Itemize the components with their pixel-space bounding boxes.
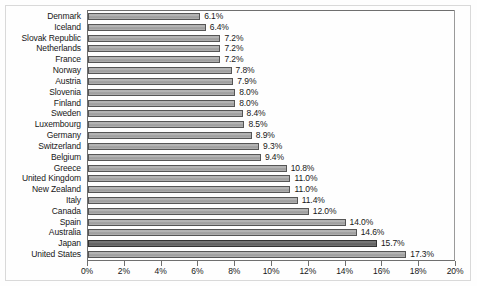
axis-tick-label: 18% (410, 266, 427, 277)
axis-tick-label: 8% (228, 266, 240, 277)
axis-tick-label: 6% (191, 266, 203, 277)
bar-value-label: 10.8% (291, 164, 315, 173)
bar (88, 89, 235, 96)
bar-rows: 6.1%6.4%7.2%7.2%7.2%7.8%7.9%8.0%8.0%8.4%… (88, 11, 454, 260)
bar (88, 35, 220, 42)
bar (88, 208, 309, 215)
bar-value-label: 11.0% (294, 174, 317, 183)
category-label: Denmark (0, 11, 84, 22)
axis-tick-label: 2% (118, 266, 130, 277)
bar-row: 6.1% (88, 11, 454, 22)
bar (88, 186, 290, 193)
category-label: Luxembourg (0, 119, 84, 130)
bar-value-label: 9.4% (265, 153, 284, 162)
bar-value-label: 14.6% (361, 228, 385, 237)
bar (88, 13, 200, 20)
bar (88, 240, 377, 247)
bar-row: 7.2% (88, 54, 454, 65)
bar-value-label: 8.5% (248, 120, 267, 129)
bar-row: 8.0% (88, 87, 454, 98)
bar-chart: DenmarkIcelandSlovak RepublicNetherlands… (0, 0, 477, 286)
bar (88, 165, 287, 172)
bar-row: 8.4% (88, 108, 454, 119)
axis-tick-label: 10% (263, 266, 280, 277)
bar-value-label: 8.4% (247, 109, 266, 118)
bar-row: 15.7% (88, 238, 454, 249)
axis-tick-label: 4% (155, 266, 167, 277)
bar-row: 8.9% (88, 130, 454, 141)
category-label: Austria (0, 76, 84, 87)
plot-right-border (454, 10, 455, 261)
bar-row: 7.2% (88, 43, 454, 54)
category-label: Greece (0, 163, 84, 174)
bar-value-label: 15.7% (381, 239, 405, 248)
bar-row: 11.0% (88, 184, 454, 195)
bar (88, 197, 298, 204)
bar-row: 9.3% (88, 141, 454, 152)
bar (88, 219, 346, 226)
bar-row: 14.0% (88, 217, 454, 228)
bar (88, 78, 233, 85)
category-label: Japan (0, 238, 84, 249)
bar-value-label: 7.2% (224, 34, 243, 43)
category-label: Sweden (0, 108, 84, 119)
bar-row: 17.3% (88, 249, 454, 260)
bar (88, 154, 261, 161)
bar-value-label: 8.0% (239, 99, 258, 108)
axis-tick-label: 0% (81, 266, 93, 277)
bar (88, 56, 220, 63)
category-label: Iceland (0, 22, 84, 33)
plot-area: 6.1%6.4%7.2%7.2%7.2%7.8%7.9%8.0%8.0%8.4%… (87, 10, 455, 261)
category-axis-labels: DenmarkIcelandSlovak RepublicNetherlands… (0, 11, 84, 260)
bar (88, 45, 220, 52)
category-label: Netherlands (0, 43, 84, 54)
axis-tick-label: 16% (373, 266, 390, 277)
bar-value-label: 7.8% (236, 66, 255, 75)
bar-value-label: 6.4% (210, 23, 229, 32)
bar (88, 110, 243, 117)
category-label: Germany (0, 130, 84, 141)
bar-row: 7.8% (88, 65, 454, 76)
value-axis-tick-labels: 0%2%4%6%8%10%12%14%16%18%20% (87, 266, 455, 280)
bar-value-label: 6.1% (204, 12, 223, 21)
bar-value-label: 8.0% (239, 88, 258, 97)
axis-tick-label: 20% (447, 266, 464, 277)
bar-value-label: 14.0% (350, 218, 374, 227)
bar-row: 6.4% (88, 22, 454, 33)
category-label: Australia (0, 228, 84, 239)
bar-value-label: 7.2% (224, 44, 243, 53)
bar-row: 8.0% (88, 98, 454, 109)
category-label: United States (0, 249, 84, 260)
bar-value-label: 7.9% (237, 77, 256, 86)
bar (88, 229, 357, 236)
bar-row: 8.5% (88, 119, 454, 130)
bar (88, 143, 259, 150)
bar (88, 175, 290, 182)
category-label: Slovenia (0, 87, 84, 98)
bar-value-label: 12.0% (313, 207, 337, 216)
category-label: France (0, 54, 84, 65)
category-label: New Zealand (0, 184, 84, 195)
bar-row: 11.4% (88, 195, 454, 206)
category-label: Finland (0, 98, 84, 109)
bar-value-label: 8.9% (256, 131, 275, 140)
bar-value-label: 17.3% (410, 250, 434, 259)
bar (88, 121, 244, 128)
category-label: Norway (0, 65, 84, 76)
category-label: Spain (0, 217, 84, 228)
bar (88, 132, 252, 139)
category-label: Switzerland (0, 141, 84, 152)
axis-tick-label: 12% (299, 266, 316, 277)
category-label: United Kingdom (0, 173, 84, 184)
bar-value-label: 9.3% (263, 142, 282, 151)
category-label: Canada (0, 206, 84, 217)
bar-value-label: 7.2% (224, 55, 243, 64)
bar-row: 7.9% (88, 76, 454, 87)
category-label: Italy (0, 195, 84, 206)
bar (88, 100, 235, 107)
bar-row: 11.0% (88, 173, 454, 184)
bar-row: 9.4% (88, 152, 454, 163)
bar (88, 251, 406, 258)
bar (88, 67, 232, 74)
category-label: Belgium (0, 152, 84, 163)
